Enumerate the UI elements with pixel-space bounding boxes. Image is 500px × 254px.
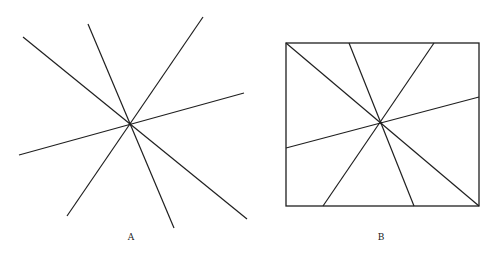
intersection-point — [380, 122, 383, 125]
diagram-canvas: A B — [0, 0, 500, 254]
line-through-center — [286, 97, 479, 148]
figure-b-framed-star-of-lines — [286, 43, 479, 206]
intersection-point — [129, 123, 132, 126]
line-through-center — [323, 43, 434, 206]
figure-a-label: A — [127, 232, 135, 242]
figure-a-star-of-lines — [19, 17, 247, 228]
figure-b-label: B — [378, 232, 385, 242]
line-through-center — [286, 43, 479, 206]
line-through-center — [19, 93, 244, 155]
line-through-center — [23, 37, 247, 219]
line-through-center — [349, 43, 414, 206]
line-through-center — [67, 17, 203, 216]
line-through-center — [88, 24, 174, 228]
